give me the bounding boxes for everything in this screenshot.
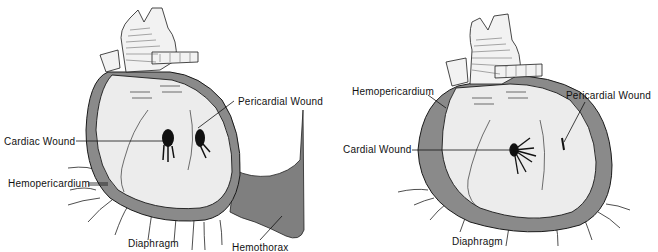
- hemothorax-region: [230, 110, 304, 238]
- heart-illustration-left: [0, 0, 330, 252]
- label-hemothorax: Hemothorax: [232, 242, 288, 252]
- label-diaphragm-left: Diaphragm: [128, 238, 179, 249]
- label-hemopericardium-right: Hemopericardium: [352, 86, 434, 97]
- label-diaphragm-right: Diaphragm: [452, 236, 503, 247]
- label-pericardial-wound-right: Pericardial Wound: [566, 90, 651, 101]
- diagram-right-panel: Hemopericardium Pericardial Wound Cardia…: [330, 0, 658, 252]
- great-vessels: [100, 8, 198, 72]
- label-cardiac-wound: Cardiac Wound: [4, 136, 75, 147]
- label-hemopericardium-left: Hemopericardium: [8, 178, 90, 189]
- label-cardial-wound: Cardial Wound: [343, 144, 412, 155]
- heart-illustration-right: [330, 0, 658, 252]
- label-pericardial-wound-left: Pericardial Wound: [238, 96, 323, 107]
- great-vessels: [446, 14, 542, 86]
- diagram-left-panel: Pericardial Wound Cardiac Wound Hemoperi…: [0, 0, 330, 252]
